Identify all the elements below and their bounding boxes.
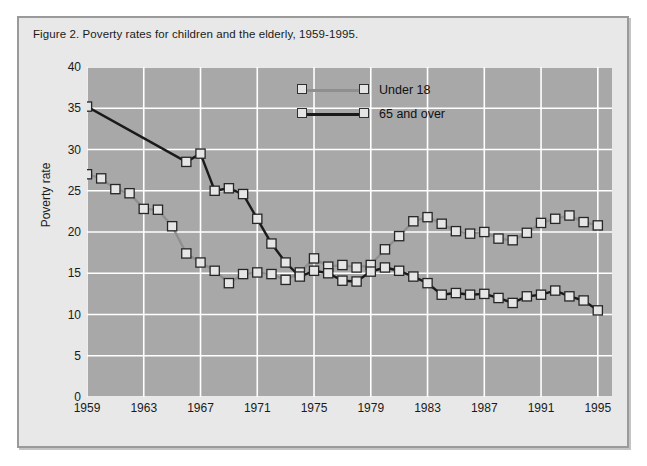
- x-axis-tick-labels: 1959196319671971197519791983198719911995: [87, 401, 612, 423]
- y-tick-label: 25: [39, 184, 81, 198]
- legend-marker-icon: [359, 108, 369, 118]
- y-tick-label: 40: [39, 60, 81, 74]
- x-tick-label: 1987: [471, 401, 498, 415]
- y-tick-label: 15: [39, 266, 81, 280]
- x-tick-label: 1991: [528, 401, 555, 415]
- legend-label-under-18: Under 18: [379, 83, 430, 97]
- chart-legend: Under 18 65 and over: [297, 79, 487, 127]
- x-tick-label: 1975: [301, 401, 328, 415]
- y-axis-tick-labels: 0510152025303540: [35, 67, 81, 397]
- legend-swatch-65-and-over: [297, 107, 369, 121]
- y-tick-label: 30: [39, 143, 81, 157]
- plot-area: Under 18 65 and over: [87, 67, 612, 397]
- y-tick-label: 35: [39, 101, 81, 115]
- x-tick-label: 1971: [244, 401, 271, 415]
- figure-caption: Figure 2. Poverty rates for children and…: [33, 28, 358, 40]
- legend-swatch-under-18: [297, 83, 369, 97]
- legend-label-65-and-over: 65 and over: [379, 107, 445, 121]
- y-tick-label: 5: [39, 349, 81, 363]
- x-tick-label: 1967: [187, 401, 214, 415]
- figure-frame: Figure 2. Poverty rates for children and…: [17, 16, 629, 448]
- x-tick-label: 1983: [414, 401, 441, 415]
- y-tick-label: 10: [39, 308, 81, 322]
- legend-item-under-18: Under 18: [297, 79, 430, 101]
- y-tick-label: 20: [39, 225, 81, 239]
- legend-item-65-and-over: 65 and over: [297, 103, 445, 125]
- legend-marker-icon: [297, 84, 307, 94]
- legend-marker-icon: [297, 108, 307, 118]
- x-tick-label: 1963: [130, 401, 157, 415]
- x-tick-label: 1959: [74, 401, 101, 415]
- x-tick-label: 1979: [357, 401, 384, 415]
- legend-marker-icon: [359, 84, 369, 94]
- x-tick-label: 1995: [584, 401, 611, 415]
